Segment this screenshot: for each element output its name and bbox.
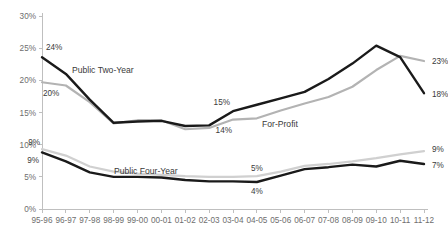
series-label-for-profit: For-Profit: [262, 119, 298, 129]
data-point-label: 15%: [214, 98, 230, 107]
data-point-label: 24%: [46, 43, 62, 52]
x-tick-label: 03-04: [223, 216, 244, 225]
data-point-label: 14%: [216, 126, 232, 135]
x-tick-label: 05-06: [270, 216, 291, 225]
x-tick-label: 95-96: [32, 216, 53, 225]
x-tick-label: 00-01: [151, 216, 172, 225]
data-point-label: 5%: [251, 164, 263, 173]
data-point-label: 4%: [251, 187, 263, 196]
x-tick-label: 01-02: [175, 216, 196, 225]
line-chart: 0%5%10%15%20%25%30% 95-9696-9797-9898-99…: [0, 0, 448, 246]
series-label-public-two-year: Public Two-Year: [72, 65, 134, 75]
series-label-public-four-year: Public Four-Year: [114, 166, 178, 176]
y-tick-label: 30%: [20, 12, 36, 21]
data-point-label: 9%: [432, 145, 444, 154]
y-tick-label: 20%: [20, 76, 36, 85]
y-tick-label: 0%: [24, 205, 36, 214]
x-tick-label: 07-08: [318, 216, 339, 225]
data-point-label: 9%: [27, 156, 39, 165]
data-point-label: 9%: [28, 138, 40, 147]
x-tick-label: 10-11: [390, 216, 411, 225]
data-point-label: 23%: [432, 57, 448, 66]
x-tick-label: 11-12: [414, 216, 435, 225]
y-tick-label: 25%: [20, 44, 36, 53]
x-tick-label: 06-07: [294, 216, 315, 225]
data-point-label: 18%: [432, 90, 448, 99]
data-point-label: 20%: [43, 89, 59, 98]
chart-container: 0%5%10%15%20%25%30% 95-9696-9797-9898-99…: [0, 0, 448, 246]
x-tick-label: 08-09: [342, 216, 363, 225]
x-tick-label: 02-03: [199, 216, 220, 225]
x-tick-label: 04-05: [246, 216, 267, 225]
x-tick-label: 98-99: [103, 216, 124, 225]
y-tick-label: 5%: [24, 173, 36, 182]
y-tick-label: 15%: [20, 109, 36, 118]
x-tick-label: 97-98: [79, 216, 100, 225]
x-tick-label: 09-10: [366, 216, 387, 225]
x-tick-label: 99-00: [127, 216, 148, 225]
x-tick-label: 96-97: [55, 216, 76, 225]
data-point-label: 7%: [432, 161, 444, 170]
